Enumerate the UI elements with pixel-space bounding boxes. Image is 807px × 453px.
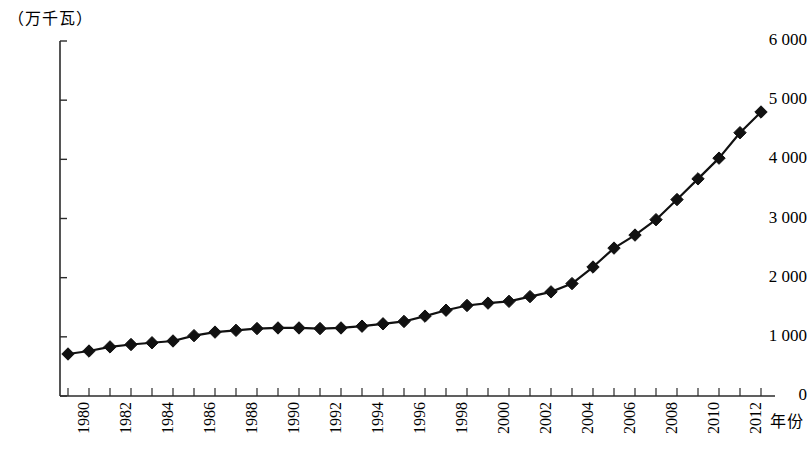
data-point-marker <box>188 329 200 341</box>
data-point-marker <box>209 326 221 338</box>
series-line <box>68 112 761 354</box>
data-point-marker <box>398 315 410 327</box>
data-point-marker <box>293 322 305 334</box>
data-point-marker <box>440 304 452 316</box>
data-point-marker <box>125 338 137 350</box>
data-point-marker <box>314 322 326 334</box>
data-point-marker <box>230 324 242 336</box>
data-point-marker <box>272 322 284 334</box>
data-point-marker <box>83 345 95 357</box>
data-point-marker <box>461 299 473 311</box>
chart-axes <box>60 41 775 396</box>
data-point-marker <box>62 348 74 360</box>
data-point-marker <box>167 335 179 347</box>
data-point-marker <box>545 286 557 298</box>
data-point-marker <box>146 337 158 349</box>
line-chart-plot <box>0 0 807 453</box>
data-point-marker <box>356 320 368 332</box>
data-series-installed-capacity <box>62 106 767 360</box>
data-point-marker <box>524 290 536 302</box>
data-point-marker <box>482 297 494 309</box>
data-point-marker <box>251 322 263 334</box>
chart-figure: （万千瓦） 年份 01 0002 0003 0004 0005 0006 000… <box>0 0 807 453</box>
data-point-marker <box>503 295 515 307</box>
data-point-marker <box>104 341 116 353</box>
data-point-marker <box>377 318 389 330</box>
data-point-marker <box>335 322 347 334</box>
data-point-marker <box>419 310 431 322</box>
